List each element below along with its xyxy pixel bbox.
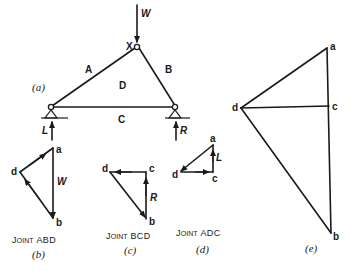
apex-label: X (126, 41, 133, 52)
left-reaction-label: L (42, 125, 48, 136)
force-l-label: L (216, 152, 222, 163)
point-a-label: a (330, 41, 336, 52)
figure-label-c: (c) (124, 244, 137, 257)
force-db-arrow-icon (110, 172, 145, 217)
line-ab (327, 48, 331, 233)
space-label-c: C (118, 114, 125, 125)
point-d-label: d (102, 163, 108, 174)
joint-bcd-caption: JOINTBCD (106, 231, 151, 241)
point-d-label: d (172, 169, 178, 180)
apex-joint (134, 44, 139, 49)
point-c-label: c (332, 101, 338, 112)
joint-abd-diagram: a d b W JOINTABD (b) (11, 144, 68, 261)
joint-bcd-diagram: c d b R JOINTBCD (c) (102, 163, 158, 257)
point-a-label: a (56, 144, 62, 155)
force-polygon-diagram: a d c b (e) (232, 41, 339, 255)
force-da-arrow-icon (30, 155, 44, 165)
right-support-icon (165, 110, 190, 118)
point-c-label: c (212, 173, 218, 184)
figure-label-e: (e) (305, 242, 318, 255)
point-c-label: c (149, 163, 155, 174)
force-r-label: R (150, 192, 158, 203)
space-label-a: A (85, 64, 92, 75)
joint-abd-caption: JOINTABD (12, 235, 56, 245)
load-label: W (141, 8, 152, 19)
line-dc (241, 106, 329, 108)
line-da (241, 48, 327, 108)
point-a-label: a (210, 133, 216, 144)
truss-figure: W X L R A B C D (a) (32, 5, 190, 140)
point-d-label: d (232, 102, 238, 113)
force-bd-arrow-icon (26, 181, 40, 200)
left-joint (48, 104, 53, 109)
point-b-label: b (149, 216, 155, 227)
figure-label-a: (a) (32, 81, 45, 94)
space-label-b: B (165, 64, 172, 75)
truss-force-diagram: W X L R A B C D (a) a d b W JOINTABD (b) (0, 0, 351, 271)
space-label-d: D (119, 80, 126, 91)
force-ad-arrow-icon (181, 145, 213, 171)
point-b-label: b (333, 231, 339, 242)
figure-label-b: (b) (32, 248, 45, 261)
right-reaction-label: R (180, 125, 188, 136)
figure-label-d: (d) (196, 243, 209, 256)
point-d-label: d (11, 166, 17, 177)
member-a (52, 48, 135, 106)
point-b-label: b (56, 217, 62, 228)
joint-adc-diagram: a d c L JOINTADC (d) (172, 133, 222, 256)
member-b (139, 48, 174, 104)
line-db (241, 108, 331, 233)
left-support-icon (41, 110, 68, 118)
right-joint (172, 104, 177, 109)
force-w-label: W (57, 176, 68, 187)
joint-adc-caption: JOINTADC (176, 228, 221, 238)
